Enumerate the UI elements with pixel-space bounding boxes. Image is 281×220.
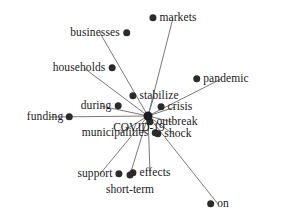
graph-node-label: support xyxy=(77,168,112,180)
graph-node-label: during xyxy=(81,100,112,112)
node-dot-icon xyxy=(108,65,115,72)
node-dot-icon xyxy=(116,171,123,178)
graph-node-label: funding xyxy=(27,111,63,123)
node-dot-icon xyxy=(158,104,165,111)
node-dot-icon xyxy=(144,112,153,121)
node-dot-icon xyxy=(123,30,130,37)
node-dot-icon xyxy=(66,114,73,121)
graph-node[interactable]: pandemic xyxy=(193,73,249,85)
node-dot-icon xyxy=(207,201,214,208)
graph-node[interactable]: support xyxy=(77,168,122,180)
network-diagram: COVID-19marketsbusinesseshouseholdspande… xyxy=(0,0,281,220)
node-dot-icon xyxy=(127,172,134,179)
graph-node[interactable]: during xyxy=(81,100,122,112)
node-dot-icon xyxy=(149,15,156,22)
graph-node[interactable]: effects xyxy=(129,167,170,179)
node-dot-icon xyxy=(193,76,200,83)
graph-node-label: businesses xyxy=(70,27,120,39)
graph-node-label: short-term xyxy=(106,183,154,195)
node-dot-icon xyxy=(129,93,136,100)
graph-node[interactable]: businesses xyxy=(70,27,130,39)
graph-node-hub[interactable] xyxy=(144,112,153,121)
graph-node-label: markets xyxy=(159,12,196,24)
graph-node[interactable] xyxy=(127,172,134,179)
graph-node[interactable]: crisis xyxy=(158,101,193,113)
node-dot-icon xyxy=(114,103,121,110)
graph-node[interactable]: markets xyxy=(149,12,196,24)
graph-node-label: effects xyxy=(139,167,170,179)
graph-node[interactable]: households xyxy=(53,62,116,74)
graph-node-label: shock xyxy=(164,128,191,140)
graph-node-label: on xyxy=(217,198,229,210)
graph-node[interactable]: funding xyxy=(27,111,73,123)
graph-node-label-hub: COVID-19 xyxy=(113,121,165,133)
graph-node-label: crisis xyxy=(168,101,193,113)
graph-node-label: pandemic xyxy=(203,73,249,85)
graph-node-label: households xyxy=(53,62,106,74)
graph-node[interactable]: on xyxy=(207,198,229,210)
